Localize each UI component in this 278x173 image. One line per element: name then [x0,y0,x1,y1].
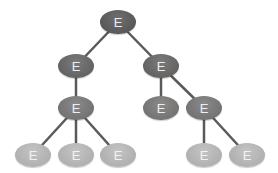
tree-node-leaf: E [229,143,265,167]
tree-node-leaf: E [58,143,94,167]
tree-node-root: E [100,10,136,34]
node-label: E [243,148,252,163]
node-label: E [200,148,209,163]
tree-node: E [143,54,179,78]
node-label: E [72,101,81,116]
tree-node: E [143,96,179,120]
node-label: E [72,148,81,163]
node-label: E [157,101,166,116]
tree-diagram: E E E E E E E E E E E [0,0,278,173]
node-label: E [29,148,38,163]
tree-node-leaf: E [186,143,222,167]
node-label: E [157,59,166,74]
node-label: E [200,101,209,116]
node-label: E [72,59,81,74]
tree-node-leaf: E [100,143,136,167]
node-label: E [114,148,123,163]
tree-node: E [58,54,94,78]
node-label: E [114,15,123,30]
tree-node: E [186,96,222,120]
tree-node-leaf: E [15,143,51,167]
tree-node: E [58,96,94,120]
